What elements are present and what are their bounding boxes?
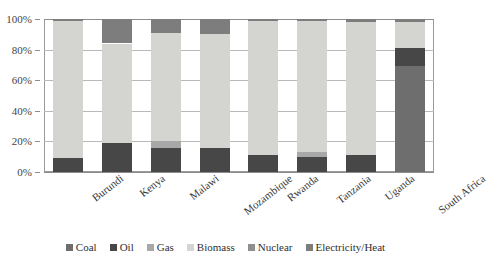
bar-segment[interactable] bbox=[102, 44, 132, 143]
legend-label: Electricity/Heat bbox=[316, 242, 386, 253]
x-tick-label: Tanzania bbox=[335, 172, 374, 206]
bar-group[interactable] bbox=[346, 19, 376, 172]
bar-segment[interactable] bbox=[151, 148, 181, 172]
bar-segment[interactable] bbox=[346, 22, 376, 155]
bar-segment[interactable] bbox=[297, 19, 327, 21]
bar-group[interactable] bbox=[248, 19, 278, 172]
bar-segment[interactable] bbox=[151, 141, 181, 147]
y-tick-label: 60% bbox=[12, 75, 32, 86]
bar-segment[interactable] bbox=[200, 148, 230, 172]
bar-segment[interactable] bbox=[395, 48, 425, 66]
legend-label: Biomass bbox=[197, 242, 235, 253]
legend-label: Coal bbox=[76, 242, 97, 253]
bar-segment[interactable] bbox=[248, 155, 278, 172]
bar-segment[interactable] bbox=[297, 157, 327, 172]
bars-layer bbox=[44, 19, 434, 172]
legend-swatch-icon bbox=[306, 244, 313, 251]
chart-legend: CoalOilGasBiomassNuclearElectricity/Heat bbox=[0, 238, 451, 256]
legend-swatch-icon bbox=[248, 244, 255, 251]
x-tick-label: Burundi bbox=[90, 172, 126, 204]
y-tick-mark bbox=[35, 141, 40, 142]
legend-item[interactable]: Oil bbox=[110, 242, 134, 253]
bar-group[interactable] bbox=[151, 19, 181, 172]
legend-swatch-icon bbox=[187, 244, 194, 251]
bar-segment[interactable] bbox=[248, 21, 278, 156]
bar-segment[interactable] bbox=[200, 34, 230, 147]
bar-segment[interactable] bbox=[102, 143, 132, 172]
bar-segment[interactable] bbox=[200, 19, 230, 34]
bar-group[interactable] bbox=[53, 19, 83, 172]
bar-segment[interactable] bbox=[346, 19, 376, 22]
legend-item[interactable]: Electricity/Heat bbox=[306, 242, 386, 253]
legend-swatch-icon bbox=[110, 244, 117, 251]
y-tick-mark bbox=[35, 50, 40, 51]
bar-stack[interactable] bbox=[395, 19, 425, 172]
bar-stack[interactable] bbox=[102, 19, 132, 172]
bar-segment[interactable] bbox=[102, 19, 132, 43]
bar-segment[interactable] bbox=[297, 21, 327, 153]
x-tick-label: Malawi bbox=[187, 172, 221, 202]
legend-label: Gas bbox=[157, 242, 174, 253]
y-tick-mark bbox=[35, 80, 40, 81]
y-tick-label: 20% bbox=[12, 136, 32, 147]
bar-segment[interactable] bbox=[151, 33, 181, 142]
x-tick-label: Kenya bbox=[137, 172, 167, 199]
y-tick-mark bbox=[35, 172, 40, 173]
bar-stack[interactable] bbox=[297, 19, 327, 172]
x-axis: BurundiKenyaMalawiMozambiqueRwandaTanzan… bbox=[44, 172, 434, 234]
legend-swatch-icon bbox=[66, 244, 73, 251]
x-tick-label: South Africa bbox=[435, 172, 486, 216]
y-tick-label: 0% bbox=[17, 167, 32, 178]
legend-item[interactable]: Nuclear bbox=[248, 242, 293, 253]
bar-segment[interactable] bbox=[151, 19, 181, 33]
legend-item[interactable]: Coal bbox=[66, 242, 97, 253]
bar-group[interactable] bbox=[297, 19, 327, 172]
bar-segment[interactable] bbox=[395, 66, 425, 172]
bar-segment[interactable] bbox=[395, 22, 425, 48]
bar-segment[interactable] bbox=[53, 158, 83, 172]
y-tick-mark bbox=[35, 19, 40, 20]
y-axis: 0%20%40%60%80%100% bbox=[0, 19, 40, 172]
y-tick-label: 100% bbox=[6, 14, 32, 25]
x-tick-label: Uganda bbox=[382, 172, 416, 203]
bar-segment[interactable] bbox=[53, 19, 83, 21]
bar-group[interactable] bbox=[102, 19, 132, 172]
y-tick-label: 80% bbox=[12, 44, 32, 55]
bar-segment[interactable] bbox=[248, 19, 278, 21]
bar-stack[interactable] bbox=[248, 19, 278, 172]
bar-segment[interactable] bbox=[53, 21, 83, 159]
bar-stack[interactable] bbox=[53, 19, 83, 172]
y-tick-mark bbox=[35, 111, 40, 112]
bar-group[interactable] bbox=[395, 19, 425, 172]
bar-stack[interactable] bbox=[346, 19, 376, 172]
legend-swatch-icon bbox=[147, 244, 154, 251]
bar-stack[interactable] bbox=[200, 19, 230, 172]
legend-item[interactable]: Gas bbox=[147, 242, 174, 253]
y-tick-label: 40% bbox=[12, 105, 32, 116]
bar-segment[interactable] bbox=[297, 152, 327, 157]
bar-stack[interactable] bbox=[151, 19, 181, 172]
legend-item[interactable]: Biomass bbox=[187, 242, 235, 253]
legend-label: Oil bbox=[120, 242, 134, 253]
legend-label: Nuclear bbox=[258, 242, 293, 253]
bar-segment[interactable] bbox=[395, 19, 425, 22]
bar-group[interactable] bbox=[200, 19, 230, 172]
bar-segment[interactable] bbox=[346, 155, 376, 172]
